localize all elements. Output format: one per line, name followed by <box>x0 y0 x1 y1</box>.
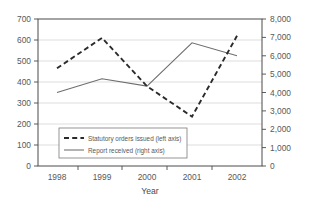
x-axis-tick-label: 1998 <box>48 172 67 182</box>
legend-label-statutory-orders: Statutory orders issued (left axis) <box>88 135 181 143</box>
right-axis-ticks <box>262 19 266 166</box>
legend-label-report-received: Report received (right axis) <box>88 147 165 155</box>
x-axis-title: Year <box>141 186 159 196</box>
right-axis-tick-label: 7,000 <box>270 32 291 42</box>
x-axis-labels: 1998 1999 2000 2001 2002 <box>48 172 247 182</box>
chart-legend: Statutory orders issued (left axis) Repo… <box>59 128 187 158</box>
right-axis-tick-label: 1,000 <box>270 143 291 153</box>
left-axis-tick-label: 400 <box>17 77 31 87</box>
x-axis-ticks <box>78 166 212 170</box>
right-axis-tick-label: 3,000 <box>270 106 291 116</box>
dual-axis-line-chart: 700 600 500 400 300 200 100 0 8,000 7,00… <box>0 0 320 199</box>
left-axis-tick-label: 0 <box>26 161 31 171</box>
left-axis-tick-label: 200 <box>17 119 31 129</box>
left-axis-tick-label: 600 <box>17 35 31 45</box>
right-axis-tick-label: 8,000 <box>270 14 291 24</box>
left-axis-ticks <box>34 19 38 166</box>
right-axis-tick-label: 5,000 <box>270 69 291 79</box>
x-axis-tick-label: 1999 <box>93 172 112 182</box>
right-axis-labels: 8,000 7,000 6,000 5,000 4,000 3,000 2,00… <box>270 14 291 171</box>
right-axis-tick-label: 6,000 <box>270 51 291 61</box>
right-axis-tick-label: 4,000 <box>270 88 291 98</box>
left-axis-tick-label: 500 <box>17 56 31 66</box>
right-axis-tick-label: 0 <box>270 161 275 171</box>
left-axis-tick-label: 300 <box>17 98 31 108</box>
x-axis-tick-label: 2001 <box>183 172 202 182</box>
left-axis-tick-label: 700 <box>17 14 31 24</box>
chart-container: 700 600 500 400 300 200 100 0 8,000 7,00… <box>0 0 320 199</box>
x-axis-tick-label: 2002 <box>228 172 247 182</box>
left-axis-tick-label: 100 <box>17 140 31 150</box>
left-axis-labels: 700 600 500 400 300 200 100 0 <box>17 14 31 171</box>
right-axis-tick-label: 2,000 <box>270 124 291 134</box>
x-axis-tick-label: 2000 <box>138 172 157 182</box>
